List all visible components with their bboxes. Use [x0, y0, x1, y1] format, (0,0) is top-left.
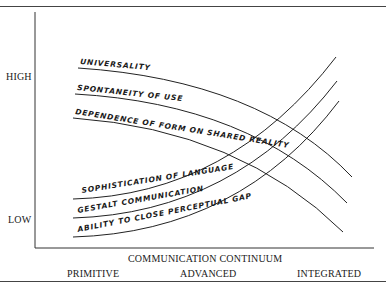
label-dependence: DEPENDENCE OF FORM ON SHARED REALITY	[75, 107, 291, 150]
label-sophistication: SOPHISTICATION OF LANGUAGE	[81, 162, 235, 195]
diagram-canvas: UNIVERSALITY SPONTANEITY OF USE DEPENDEN…	[0, 0, 386, 288]
label-universality: UNIVERSALITY	[80, 57, 152, 72]
